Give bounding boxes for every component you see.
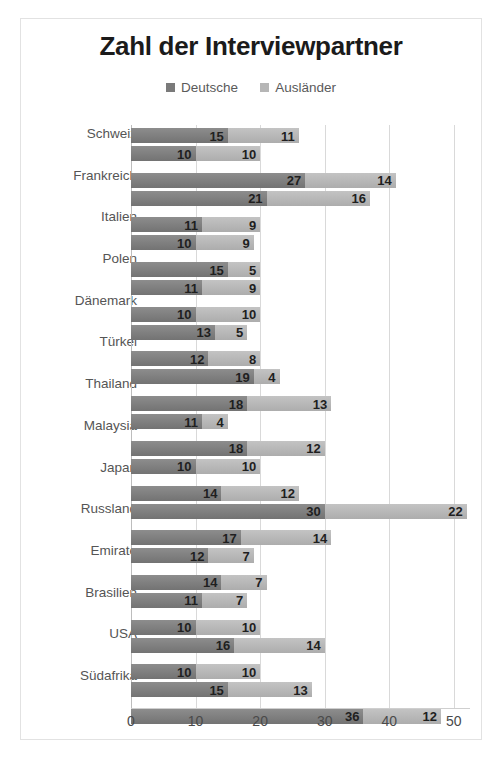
category-label-text: Frankreich: [73, 167, 137, 185]
bar-row[interactable]: 1714: [131, 530, 470, 545]
bar-segment-deutsche[interactable]: 14: [131, 575, 221, 590]
bar-segment-auslaender[interactable]: 11: [228, 128, 299, 143]
bar-row[interactable]: 1010: [131, 459, 470, 474]
bar-segment-auslaender[interactable]: 22: [325, 504, 467, 519]
bar-segment-auslaender[interactable]: 12: [221, 486, 298, 501]
bar-segment-deutsche[interactable]: 10: [131, 146, 196, 161]
bar-segment-auslaender[interactable]: 10: [196, 620, 261, 635]
bar-segment-deutsche[interactable]: 11: [131, 280, 202, 295]
bar-segment-auslaender[interactable]: 12: [247, 441, 324, 456]
bar-value-deutsche: 10: [177, 620, 191, 635]
bar-segment-auslaender[interactable]: 5: [215, 325, 247, 340]
bar-segment-auslaender[interactable]: 4: [254, 369, 280, 384]
bar-group: 147117: [131, 575, 470, 617]
bar-segment-auslaender[interactable]: 16: [267, 191, 370, 206]
bar-group: 27142116: [131, 173, 470, 215]
bar-value-deutsche: 17: [222, 530, 236, 545]
bar-row[interactable]: 117: [131, 593, 470, 608]
bar-group: 1010135: [131, 307, 470, 349]
bar-segment-auslaender[interactable]: 10: [196, 459, 261, 474]
bar-segment-auslaender[interactable]: 9: [202, 217, 260, 232]
bar-row[interactable]: 155: [131, 262, 470, 277]
bar-row[interactable]: 1614: [131, 638, 470, 653]
bar-row[interactable]: 1010: [131, 146, 470, 161]
bar-segment-auslaender[interactable]: 10: [196, 307, 261, 322]
bar-segment-deutsche[interactable]: 13: [131, 325, 215, 340]
bar-row[interactable]: 119: [131, 217, 470, 232]
bar-row[interactable]: 1412: [131, 486, 470, 501]
bar-segment-auslaender[interactable]: 7: [202, 593, 247, 608]
bar-row[interactable]: 1010: [131, 620, 470, 635]
bar-segment-auslaender[interactable]: 7: [221, 575, 266, 590]
x-axis-ticks: 01020304050: [131, 713, 470, 737]
bar-row[interactable]: 2714: [131, 173, 470, 188]
bar-segment-deutsche[interactable]: 15: [131, 262, 228, 277]
bar-segment-deutsche[interactable]: 19: [131, 369, 254, 384]
bar-segment-deutsche[interactable]: 10: [131, 235, 196, 250]
legend-entry-deutsche[interactable]: Deutsche: [166, 80, 238, 95]
bar-segment-deutsche[interactable]: 15: [131, 128, 228, 143]
bar-row[interactable]: 128: [131, 351, 470, 366]
bar-segment-auslaender[interactable]: 9: [202, 280, 260, 295]
bar-row[interactable]: 1812: [131, 441, 470, 456]
bar-segment-auslaender[interactable]: 13: [247, 396, 331, 411]
category-label-text: Thailand: [85, 375, 137, 393]
bar-segment-auslaender[interactable]: 14: [305, 173, 395, 188]
category-label-text: Brasilien: [85, 584, 137, 602]
bar-row[interactable]: 147: [131, 575, 470, 590]
bar-segment-auslaender[interactable]: 8: [208, 351, 260, 366]
bar-segment-auslaender[interactable]: 4: [202, 414, 228, 429]
bar-row[interactable]: 1813: [131, 396, 470, 411]
bar-segment-deutsche[interactable]: 11: [131, 414, 202, 429]
chart-frame: Zahl der Interviewpartner Deutsche Auslä…: [20, 18, 482, 740]
bar-value-deutsche: 11: [184, 414, 198, 429]
bar-segment-deutsche[interactable]: 11: [131, 217, 202, 232]
bar-value-deutsche: 10: [177, 307, 191, 322]
bar-segment-deutsche[interactable]: 12: [131, 548, 208, 563]
bar-row[interactable]: 135: [131, 325, 470, 340]
bar-value-deutsche: 15: [209, 262, 223, 277]
bar-segment-auslaender[interactable]: 10: [196, 146, 261, 161]
bar-segment-deutsche[interactable]: 16: [131, 638, 234, 653]
bar-row[interactable]: 114: [131, 414, 470, 429]
bar-value-deutsche: 15: [209, 682, 223, 697]
bar-segment-deutsche[interactable]: 27: [131, 173, 305, 188]
x-tick-label-20: 20: [252, 713, 268, 729]
bar-row[interactable]: 1010: [131, 307, 470, 322]
bar-row[interactable]: 2116: [131, 191, 470, 206]
bar-segment-deutsche[interactable]: 12: [131, 351, 208, 366]
bar-segment-deutsche[interactable]: 17: [131, 530, 241, 545]
bar-row[interactable]: 1010: [131, 664, 470, 679]
bar-segment-deutsche[interactable]: 14: [131, 486, 221, 501]
bar-segment-deutsche[interactable]: 18: [131, 441, 247, 456]
bar-segment-deutsche[interactable]: 10: [131, 307, 196, 322]
legend-entry-auslaender[interactable]: Ausländer: [260, 80, 336, 95]
legend-label-auslaender: Ausländer: [275, 80, 336, 95]
bar-segment-deutsche[interactable]: 30: [131, 504, 325, 519]
bar-segment-auslaender[interactable]: 14: [241, 530, 331, 545]
bar-segment-auslaender[interactable]: 7: [208, 548, 253, 563]
bar-row[interactable]: 1513: [131, 682, 470, 697]
bar-segment-deutsche[interactable]: 10: [131, 664, 196, 679]
bar-segment-auslaender[interactable]: 5: [228, 262, 260, 277]
bar-segment-deutsche[interactable]: 10: [131, 459, 196, 474]
bar-segment-auslaender[interactable]: 13: [228, 682, 312, 697]
bar-row[interactable]: 3022: [131, 504, 470, 519]
bar-row[interactable]: 109: [131, 235, 470, 250]
bar-row[interactable]: 194: [131, 369, 470, 384]
bar-segment-auslaender[interactable]: 10: [196, 664, 261, 679]
bar-segment-deutsche[interactable]: 18: [131, 396, 247, 411]
bar-value-auslaender: 5: [249, 262, 256, 277]
bar-segment-deutsche[interactable]: 21: [131, 191, 267, 206]
bar-row[interactable]: 119: [131, 280, 470, 295]
bar-row[interactable]: 1511: [131, 128, 470, 143]
bar-group: 128194: [131, 351, 470, 393]
bar-segment-deutsche[interactable]: 15: [131, 682, 228, 697]
bar-segment-auslaender[interactable]: 14: [234, 638, 324, 653]
bar-value-deutsche: 10: [177, 664, 191, 679]
bar-segment-deutsche[interactable]: 11: [131, 593, 202, 608]
bar-row[interactable]: 127: [131, 548, 470, 563]
legend-swatch-auslaender: [260, 83, 269, 92]
bar-segment-deutsche[interactable]: 10: [131, 620, 196, 635]
bar-segment-auslaender[interactable]: 9: [196, 235, 254, 250]
